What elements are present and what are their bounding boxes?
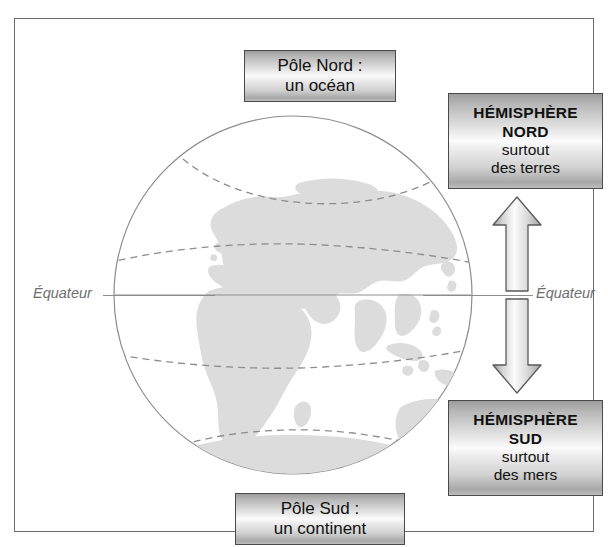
arrow-down-icon	[491, 297, 543, 395]
callout-hemisphere-sud-line3: surtout	[502, 448, 549, 466]
arrow-up-icon	[491, 195, 543, 293]
callout-pole-sud-line2: un continent	[274, 519, 367, 539]
callout-pole-sud-line1: Pôle Sud :	[281, 499, 359, 519]
callout-hemisphere-sud-line4: des mers	[494, 466, 558, 484]
callout-hemisphere-sud-line2: SUD	[509, 430, 542, 448]
callout-pole-sud: Pôle Sud : un continent	[235, 493, 405, 545]
callout-hemisphere-nord: HÉMISPHÈRE NORD surtout des terres	[448, 93, 603, 189]
equator-leader-line-right	[423, 295, 533, 296]
callout-hemisphere-sud-line1: HÉMISPHÈRE	[473, 411, 578, 429]
callout-hemisphere-nord-line4: des terres	[491, 159, 560, 177]
callout-pole-nord-line1: Pôle Nord :	[277, 56, 362, 76]
equator-label-left: Équateur	[33, 285, 92, 301]
callout-hemisphere-nord-line1: HÉMISPHÈRE	[473, 104, 578, 122]
equator-label-right: Équateur	[536, 285, 595, 301]
callout-pole-nord: Pôle Nord : un océan	[244, 50, 396, 102]
callout-pole-nord-line2: un océan	[285, 76, 355, 96]
diagram-frame: Équateur Équateur	[14, 18, 594, 532]
equator-leader-line-left	[103, 295, 215, 296]
callout-hemisphere-nord-line2: NORD	[502, 123, 548, 141]
callout-hemisphere-nord-line3: surtout	[502, 141, 549, 159]
callout-hemisphere-sud: HÉMISPHÈRE SUD surtout des mers	[448, 400, 603, 496]
